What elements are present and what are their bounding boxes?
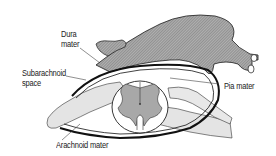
- label-pia-mater: Pia mater: [224, 81, 254, 91]
- spinal-cord: [112, 81, 168, 133]
- dura-leader: [80, 48, 100, 63]
- pia-leader: [170, 78, 219, 84]
- label-dura-mater-2: mater: [61, 39, 79, 49]
- label-subarachnoid-1: Subarachnoid: [22, 68, 66, 78]
- label-subarachnoid-2: space: [22, 78, 41, 88]
- label-arachnoid-mater: Arachnoid mater: [56, 140, 108, 150]
- spinal-cord-meninges-diagram: [0, 0, 276, 156]
- subarachnoid-leader: [66, 76, 86, 80]
- label-dura-mater-1: Dura: [61, 29, 77, 39]
